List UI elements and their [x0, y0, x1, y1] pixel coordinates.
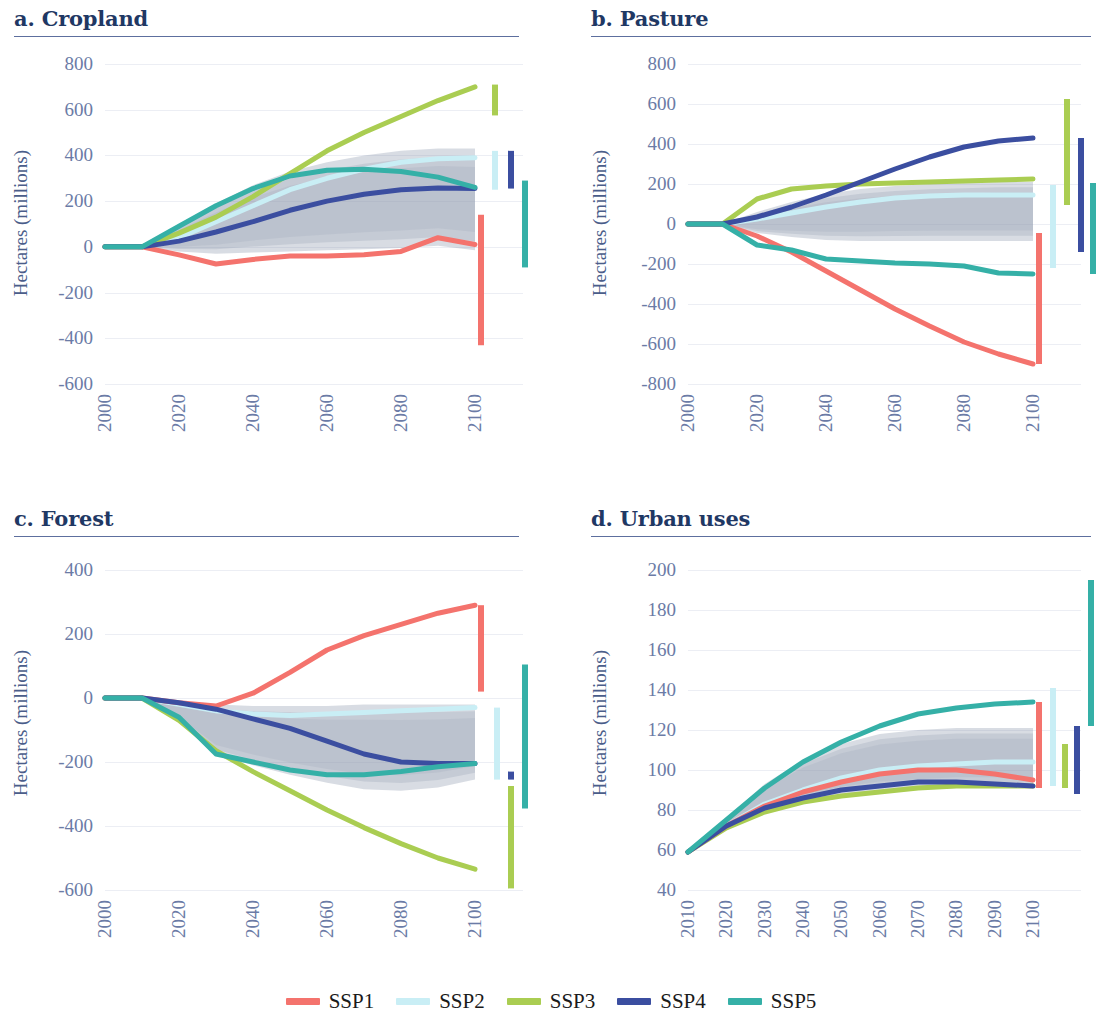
legend-label: SSP2	[439, 989, 485, 1014]
panel-a-ylabel: Hectares (millions)	[10, 150, 32, 296]
y-axis-tick-label: -600	[23, 373, 93, 395]
y-axis-tick-label: -400	[606, 293, 676, 315]
panel-d-title: d. Urban uses	[591, 506, 750, 531]
legend: SSP1SSP2SSP3SSP4SSP5	[0, 985, 1102, 1018]
legend-item-ssp3[interactable]: SSP3	[507, 989, 596, 1014]
series-line-ssp1	[105, 605, 475, 706]
y-axis-tick-label: -600	[606, 333, 676, 355]
x-axis-tick-label: 2000	[677, 394, 699, 432]
x-axis-tick-label: 2020	[746, 394, 768, 432]
y-axis-tick-label: -600	[23, 879, 93, 901]
x-axis-tick-label: 2040	[242, 394, 264, 432]
panel-d-plot: 2001801601401201008060402010202020302040…	[688, 570, 1033, 890]
plot-canvas	[688, 64, 1093, 384]
x-axis-tick-label: 2080	[390, 900, 412, 938]
y-axis-tick-label: 800	[23, 53, 93, 75]
panel-a-rule	[14, 36, 519, 37]
legend-item-ssp5[interactable]: SSP5	[728, 989, 817, 1014]
legend-item-ssp2[interactable]: SSP2	[396, 989, 485, 1014]
y-axis-tick-label: 600	[23, 99, 93, 121]
panel-c-rule	[14, 536, 519, 537]
legend-label: SSP5	[771, 989, 817, 1014]
x-axis-tick-label: 2040	[242, 900, 264, 938]
y-axis-tick-label: 400	[23, 559, 93, 581]
x-axis-tick-label: 2060	[884, 394, 906, 432]
legend-swatch-ssp5	[728, 998, 762, 1005]
series-line-ssp1	[688, 224, 1033, 364]
y-axis-tick-label: 200	[606, 173, 676, 195]
plot-canvas	[105, 570, 535, 890]
y-axis-tick-label: 0	[23, 236, 93, 258]
x-axis-tick-label: 2040	[815, 394, 837, 432]
y-axis-tick-label: 120	[606, 719, 676, 741]
y-axis-tick-label: 0	[23, 687, 93, 709]
y-axis-tick-label: 200	[23, 190, 93, 212]
gridline	[688, 384, 1081, 385]
legend-swatch-ssp3	[507, 998, 541, 1005]
panel-a-title: a. Cropland	[14, 6, 148, 31]
legend-swatch-ssp1	[286, 998, 320, 1005]
x-axis-tick-label: 2100	[464, 394, 486, 432]
panel-b-plot: 8006004002000-200-400-600-80020002020204…	[688, 64, 1033, 384]
y-axis-tick-label: 400	[23, 144, 93, 166]
figure-grid: a. Cropland Hectares (millions) 80060040…	[0, 0, 1102, 1018]
gridline	[688, 890, 1081, 891]
y-axis-tick-label: -800	[606, 373, 676, 395]
legend-item-ssp1[interactable]: SSP1	[286, 989, 375, 1014]
y-axis-tick-label: 40	[606, 879, 676, 901]
y-axis-tick-label: 200	[606, 559, 676, 581]
plot-canvas	[688, 570, 1093, 890]
panel-b-title: b. Pasture	[591, 6, 708, 31]
legend-item-ssp4[interactable]: SSP4	[617, 989, 706, 1014]
y-axis-tick-label: 400	[606, 133, 676, 155]
y-axis-tick-label: -400	[23, 327, 93, 349]
legend-swatch-ssp2	[396, 998, 430, 1005]
legend-label: SSP4	[660, 989, 706, 1014]
panel-c-plot: 4002000-200-400-600200020202040206020802…	[105, 570, 475, 890]
x-axis-tick-label: 2000	[94, 394, 116, 432]
gridline	[105, 384, 523, 385]
x-axis-tick-label: 2100	[1022, 900, 1044, 938]
x-axis-tick-label: 2100	[464, 900, 486, 938]
y-axis-tick-label: -400	[23, 815, 93, 837]
x-axis-tick-label: 2030	[754, 900, 776, 938]
x-axis-tick-label: 2040	[792, 900, 814, 938]
legend-label: SSP1	[329, 989, 375, 1014]
x-axis-tick-label: 2060	[316, 394, 338, 432]
x-axis-tick-label: 2070	[907, 900, 929, 938]
y-axis-tick-label: 800	[606, 53, 676, 75]
x-axis-tick-label: 2080	[953, 394, 975, 432]
panel-urban-uses: d. Urban uses Hectares (millions) 200180…	[551, 500, 1102, 1000]
gridline	[105, 890, 523, 891]
legend-label: SSP3	[550, 989, 596, 1014]
panel-c-title: c. Forest	[14, 506, 113, 531]
y-axis-tick-label: 140	[606, 679, 676, 701]
legend-swatch-ssp4	[617, 998, 651, 1005]
y-axis-tick-label: -200	[606, 253, 676, 275]
x-axis-tick-label: 2100	[1022, 394, 1044, 432]
x-axis-tick-label: 2020	[168, 900, 190, 938]
x-axis-tick-label: 2080	[945, 900, 967, 938]
y-axis-tick-label: -200	[23, 282, 93, 304]
panel-pasture: b. Pasture Hectares (millions) 800600400…	[551, 0, 1102, 500]
x-axis-tick-label: 2020	[715, 900, 737, 938]
panel-a-plot: 8006004002000-200-400-600200020202040206…	[105, 64, 475, 384]
x-axis-tick-label: 2090	[984, 900, 1006, 938]
x-axis-tick-label: 2010	[677, 900, 699, 938]
panel-forest: c. Forest Hectares (millions) 4002000-20…	[0, 500, 551, 1000]
y-axis-tick-label: 160	[606, 639, 676, 661]
y-axis-tick-label: -200	[23, 751, 93, 773]
x-axis-tick-label: 2000	[94, 900, 116, 938]
panel-c-ylabel: Hectares (millions)	[10, 650, 32, 796]
x-axis-tick-label: 2060	[869, 900, 891, 938]
x-axis-tick-label: 2080	[390, 394, 412, 432]
y-axis-tick-label: 60	[606, 839, 676, 861]
plot-canvas	[105, 64, 535, 384]
panel-d-rule	[591, 536, 1091, 537]
x-axis-tick-label: 2050	[830, 900, 852, 938]
x-axis-tick-label: 2060	[316, 900, 338, 938]
panel-b-rule	[591, 36, 1091, 37]
x-axis-tick-label: 2020	[168, 394, 190, 432]
y-axis-tick-label: 0	[606, 213, 676, 235]
y-axis-tick-label: 600	[606, 93, 676, 115]
